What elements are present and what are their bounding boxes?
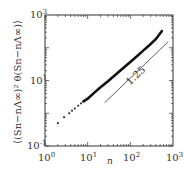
x-tick-1e2: 102 [123,151,140,163]
x-tick-1e3: 103 [166,151,183,163]
x-axis-label: n [107,156,113,166]
data-points [57,31,162,124]
slope-label: 1.25 [124,64,148,87]
y-axis-label: ⟨(Sn−nΛ∞)² θ(Sn−nΛ∞)⟩ [12,20,23,144]
y-tick-labels: 10-1 101 103 [27,8,47,151]
log-log-plot: 1.25 100 101 102 103 n 10-1 101 103 ⟨(Sn… [0,0,184,176]
y-tick-1e-1: 10-1 [27,139,47,151]
x-tick-1e0: 100 [38,151,55,163]
x-tick-1e1: 101 [80,151,97,163]
